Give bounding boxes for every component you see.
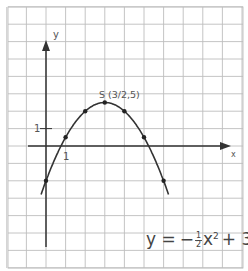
data-point [122, 109, 126, 113]
data-point [44, 179, 48, 183]
equation-exponent: 2 [213, 231, 219, 241]
equation-lhs: y = [146, 229, 176, 249]
y-tick-label: 1 [34, 123, 40, 134]
data-point [161, 179, 165, 183]
equation-variable: x [203, 229, 213, 249]
equation-fraction: 1 2 [195, 232, 202, 249]
vertex-label: S (3/2,5) [99, 89, 140, 100]
data-point [63, 135, 67, 139]
fraction-numerator: 1 [196, 232, 201, 240]
equation-label: y = − 1 2 x2 + 3x − 2 [146, 229, 248, 249]
x-tick-label: 1 [63, 151, 69, 162]
x-axis-arrow-icon [220, 142, 231, 150]
fraction-denominator: 2 [196, 241, 201, 249]
x-axis-label: x [231, 150, 236, 159]
equation-minus: − [180, 229, 194, 249]
equation-rest: + 3x − 2 [222, 229, 248, 249]
data-point [83, 109, 87, 113]
y-axis-label: y [53, 29, 59, 40]
data-point [103, 100, 107, 104]
data-point [142, 135, 146, 139]
